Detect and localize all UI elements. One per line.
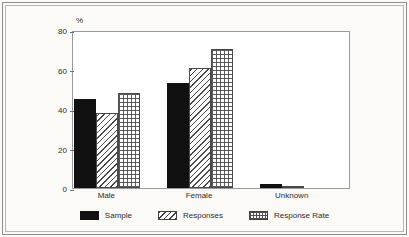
y-axis-tick: 20	[58, 147, 73, 155]
y-axis-tick-label: 80	[58, 28, 70, 36]
bar-female-responses	[189, 68, 211, 188]
bar-male-responses	[96, 113, 118, 188]
chart-legend: SampleResponsesResponse Rate	[0, 211, 409, 220]
legend-item-sample[interactable]: Sample	[80, 211, 132, 220]
y-axis-tick-label: 20	[58, 147, 70, 155]
y-axis-tick-label: 0	[63, 186, 70, 194]
legend-item-label: Response Rate	[274, 212, 329, 220]
legend-swatch-icon	[249, 211, 268, 220]
legend-swatch-icon	[80, 211, 99, 220]
y-axis-tick: 40	[58, 107, 73, 115]
bar-male-response-rate	[118, 93, 140, 188]
y-axis-tick-mark	[70, 190, 74, 191]
bar-female-response-rate	[211, 49, 233, 188]
x-axis-label-unknown: Unknown	[275, 192, 308, 200]
x-axis-label-male: Male	[98, 192, 115, 200]
bars-layer	[73, 32, 349, 188]
x-axis-label-female: Female	[186, 192, 213, 200]
y-axis-unit-label: %	[76, 17, 83, 25]
y-axis-tick: 0	[63, 186, 73, 194]
plot-area: 020406080	[72, 31, 350, 189]
legend-item-label: Responses	[183, 212, 223, 220]
legend-item-label: Sample	[105, 212, 132, 220]
bar-male-sample	[74, 99, 96, 188]
bar-unknown-sample	[260, 184, 282, 188]
legend-item-response-rate[interactable]: Response Rate	[249, 211, 329, 220]
y-axis-tick-label: 60	[58, 68, 70, 76]
legend-item-responses[interactable]: Responses	[158, 211, 223, 220]
chart-figure: % 020406080 MaleFemaleUnknown SampleResp…	[0, 0, 409, 237]
bar-unknown-responses	[282, 186, 304, 188]
y-axis-tick: 60	[58, 68, 73, 76]
legend-swatch-icon	[158, 211, 177, 220]
y-axis-tick-label: 40	[58, 107, 70, 115]
bar-female-sample	[167, 83, 189, 188]
y-axis-tick: 80	[58, 28, 73, 36]
